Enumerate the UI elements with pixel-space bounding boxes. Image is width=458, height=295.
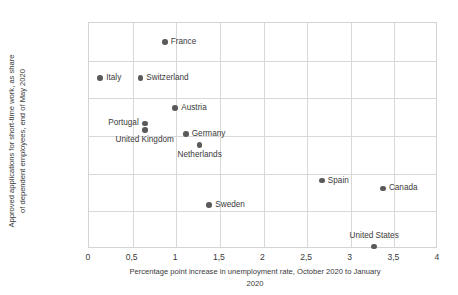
data-point-label: United Kingdom [116,135,174,145]
data-point-label: Canada [389,183,418,193]
data-point-marker [142,127,148,133]
x-axis-tick-label: 2,5 [286,252,326,262]
gridline-vertical [264,23,265,247]
x-axis-title: Percentage point increase in unemploymen… [60,266,450,289]
gridline-vertical [307,23,308,247]
data-point-label: Spain [328,176,349,186]
x-axis-title-line-2: 2020 [60,278,450,290]
x-axis-tick-label: 0 [68,252,108,262]
data-point-label: Italy [106,73,121,83]
data-point-marker [319,178,325,184]
y-axis-title: Approved applications for short-time wor… [6,16,36,266]
gridline-horizontal [89,174,436,175]
x-axis-tick-label: 4 [417,252,457,262]
data-point-marker [142,121,148,127]
gridline-vertical [351,23,352,247]
data-point-marker [371,244,377,250]
data-point-label: Austria [181,103,206,113]
data-point-marker [162,39,168,45]
data-point-marker [197,142,203,148]
x-axis-tick-label: 3 [330,252,370,262]
data-point-marker [183,131,189,137]
x-axis-tick-label: 3,5 [373,252,413,262]
data-point-label: Netherlands [178,150,222,160]
x-axis-tick-label: 1 [155,252,195,262]
scatter-chart-figure: Approved applications for short-time wor… [0,0,458,295]
gridline-horizontal [89,61,436,62]
gridline-vertical [176,23,177,247]
data-point-marker [206,202,212,208]
data-point-label: Portugal [108,118,139,128]
data-point-marker [97,75,103,81]
data-point-marker [380,186,386,192]
x-axis-tick-label: 0,5 [112,252,152,262]
x-axis-title-line-1: Percentage point increase in unemploymen… [60,266,450,278]
data-point-label: Sweden [215,200,245,210]
y-axis-title-line-1: Approved applications for short-time wor… [6,16,17,266]
gridline-horizontal [89,211,436,212]
gridline-vertical [394,23,395,247]
x-axis-tick-label: 1,5 [199,252,239,262]
x-axis-tick-label: 2 [243,252,283,262]
data-point-label: United States [350,231,399,241]
gridline-horizontal [89,98,436,99]
y-axis-title-line-2: of dependent employees, end of May 2020 [17,16,28,266]
data-point-label: France [171,37,196,47]
data-point-label: Germany [192,129,226,139]
data-point-label: Switzerland [146,73,188,83]
data-point-marker [138,75,144,81]
